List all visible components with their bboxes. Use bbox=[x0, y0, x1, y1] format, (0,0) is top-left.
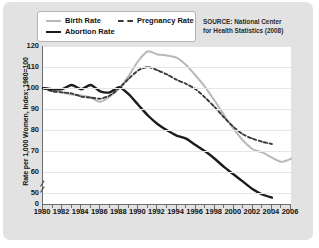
gridline bbox=[43, 67, 291, 68]
y-axis-labels: 05060708090100110120 bbox=[14, 46, 39, 206]
legend-item-abortion-rate: Abortion Rate bbox=[46, 28, 115, 36]
legend-label-abortion-rate: Abortion Rate bbox=[65, 28, 115, 36]
x-axis-tick-label: 1996 bbox=[186, 207, 203, 216]
legend-swatch-birth-rate-icon bbox=[46, 20, 61, 22]
source-note-line-2: for Health Statistics (2008) bbox=[203, 27, 303, 36]
legend-label-pregnancy-rate: Pregnancy Rate bbox=[137, 17, 194, 25]
chart-screenshot: Rate per 1,000 Women, Index: 1980=100 05… bbox=[0, 0, 319, 248]
plot-frame bbox=[42, 46, 291, 205]
source-note: SOURCE: National Center for Health Stati… bbox=[203, 18, 303, 35]
gridline bbox=[43, 88, 291, 89]
x-axis-tick-label: 1980 bbox=[34, 207, 51, 216]
x-axis-tick-label: 2002 bbox=[244, 207, 261, 216]
plot-area bbox=[43, 46, 291, 204]
x-axis-tick-label: 1990 bbox=[129, 207, 146, 216]
legend-item-birth-rate: Birth Rate bbox=[46, 17, 101, 25]
x-axis-tick-label: 1986 bbox=[91, 207, 108, 216]
x-axis-tick-label: 1982 bbox=[53, 207, 70, 216]
y-axis-tick-label: 80 bbox=[17, 126, 39, 134]
x-axis-tick-label: 1994 bbox=[167, 207, 184, 216]
y-axis-tick-label: 70 bbox=[17, 147, 39, 155]
legend-swatch-abortion-rate-icon bbox=[46, 31, 61, 33]
x-axis-tick-label: 2004 bbox=[263, 207, 280, 216]
x-axis-tick-label: 2000 bbox=[224, 207, 241, 216]
legend-swatch-pregnancy-rate-icon bbox=[118, 20, 133, 22]
gridline bbox=[43, 46, 291, 47]
gridline bbox=[43, 193, 291, 194]
y-axis-tick-label: 90 bbox=[17, 105, 39, 113]
x-axis-tick-label: 1998 bbox=[205, 207, 222, 216]
x-axis-tick-label: 1992 bbox=[148, 207, 165, 216]
source-note-line-1: SOURCE: National Center bbox=[203, 18, 303, 27]
x-axis-tick-label: 1988 bbox=[110, 207, 127, 216]
x-axis-tick-label: 1984 bbox=[72, 207, 89, 216]
y-axis-tick-label: 60 bbox=[17, 168, 39, 176]
series-line-pregnancy-rate bbox=[43, 67, 272, 144]
legend-item-pregnancy-rate: Pregnancy Rate bbox=[118, 17, 194, 25]
y-axis-tick-label: 110 bbox=[17, 63, 39, 71]
gridline bbox=[43, 130, 291, 131]
legend-label-birth-rate: Birth Rate bbox=[65, 17, 101, 25]
gridline bbox=[43, 109, 291, 110]
gridline bbox=[43, 172, 291, 173]
x-axis-tick-label: 2006 bbox=[282, 207, 299, 216]
y-axis-tick-label: 120 bbox=[17, 42, 39, 50]
x-axis-labels: 1980198219841986198819901992199419961998… bbox=[42, 207, 294, 219]
chart-legend: Birth Rate Abortion Rate Pregnancy Rate bbox=[37, 11, 196, 42]
y-axis-tick-label: 100 bbox=[17, 84, 39, 92]
gridline bbox=[43, 151, 291, 152]
y-axis-tick-label: 50 bbox=[17, 189, 39, 197]
series-svg bbox=[43, 46, 291, 204]
series-line-abortion-rate bbox=[43, 85, 272, 198]
